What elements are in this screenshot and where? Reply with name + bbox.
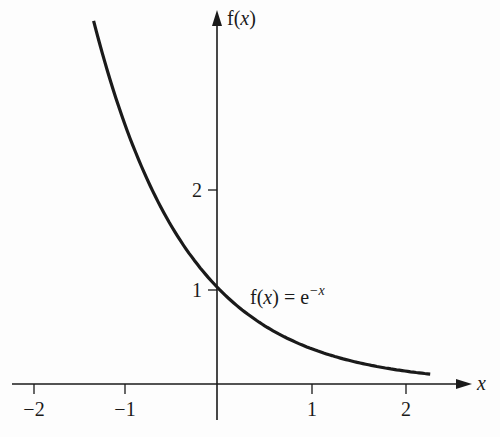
x-ticks: [34, 384, 406, 394]
x-axis-label: x: [476, 372, 486, 394]
x-tick-label-minus1: −1: [114, 398, 135, 420]
x-axis-arrow-icon: [456, 379, 472, 389]
x-tick-label-minus2: −2: [23, 398, 44, 420]
y-ticks: [208, 190, 217, 290]
x-tick-label-2: 2: [401, 398, 411, 420]
x-tick-label-1: 1: [307, 398, 317, 420]
y-axis-label: f(x): [227, 7, 256, 30]
y-axis-arrow-icon: [212, 10, 222, 26]
curve-equation-label: f(x) = e−x: [250, 283, 325, 309]
y-tick-label-2: 2: [192, 179, 202, 201]
chart-figure: −2 −1 1 2 1 2 x f(x) f(x) = e−x: [0, 0, 500, 437]
exponential-decay-curve: [94, 21, 431, 374]
chart-svg: −2 −1 1 2 1 2 x f(x) f(x) = e−x: [0, 0, 500, 437]
y-tick-label-1: 1: [192, 279, 202, 301]
